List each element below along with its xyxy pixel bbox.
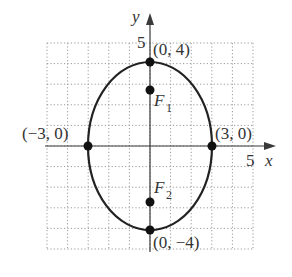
left-vertex-point [84,142,93,151]
diagram-canvas: y 5 x 5 (0, 4) (0, −4) (−3, 0) (3, 0) F … [0,0,292,277]
top-vertex-label: (0, 4) [153,40,190,59]
focus-2-subscript: 2 [166,188,172,202]
focus-2-point [146,198,155,207]
y-axis-arrow-icon [146,13,154,25]
focus-1-label: F [153,91,165,110]
y-tick-label: 5 [137,33,146,52]
ellipse-diagram: y 5 x 5 (0, 4) (0, −4) (−3, 0) (3, 0) F … [0,0,292,277]
x-axis-label: x [264,151,273,170]
left-vertex-label: (−3, 0) [22,124,68,143]
x-tick-label: 5 [246,151,255,170]
right-vertex-label: (3, 0) [215,124,252,143]
x-axis-arrow-icon [264,142,276,150]
y-axis-label: y [130,7,140,26]
focus-1-subscript: 1 [166,101,172,115]
focus-2-label: F [153,178,165,197]
bottom-vertex-label: (0, −4) [153,233,199,252]
